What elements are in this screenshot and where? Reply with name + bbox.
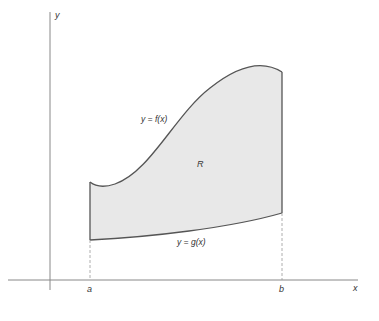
f-curve-label: y = f(x): [141, 114, 167, 124]
region-diagram: [0, 0, 379, 321]
shaded-region: [90, 65, 282, 240]
y-axis-label: y: [55, 10, 60, 20]
g-curve-label: y = g(x): [177, 237, 206, 247]
b-label: b: [279, 284, 284, 294]
a-label: a: [87, 284, 92, 294]
region-label: R: [197, 159, 204, 169]
x-axis-label: x: [353, 283, 358, 293]
